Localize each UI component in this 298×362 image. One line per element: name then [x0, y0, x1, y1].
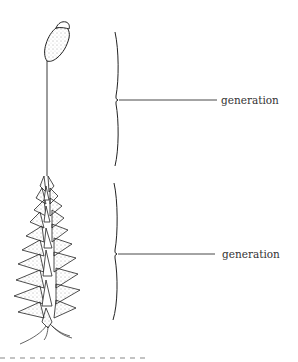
moss-illustration: [0, 0, 298, 362]
upper-brace: [115, 32, 118, 166]
lower-brace: [113, 183, 117, 320]
lower-generation-label: generation: [222, 248, 280, 260]
upper-generation-label: generation: [221, 94, 279, 106]
rhizoids: [20, 324, 72, 344]
leafy-shoot: [14, 176, 80, 328]
moss-diagram: generation generation: [0, 0, 298, 362]
capsule: [45, 22, 70, 62]
